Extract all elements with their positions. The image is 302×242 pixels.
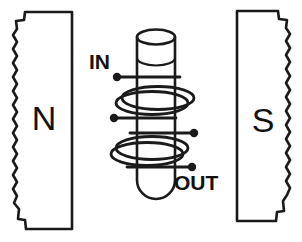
left-magnet-north: N [13,12,72,229]
solenoid-magnet-diagram: N S [0,0,302,242]
terminal-dot-out-upper [190,129,198,137]
terminal-dot-in-lower [110,114,118,122]
out-label: OUT [174,171,219,194]
south-pole-label: S [252,101,275,139]
terminal-dot-in-upper [113,73,121,81]
north-pole-label: N [32,99,57,137]
right-magnet-south: S [237,11,290,221]
diagram-canvas: N S [0,0,302,242]
in-label: IN [89,50,110,73]
